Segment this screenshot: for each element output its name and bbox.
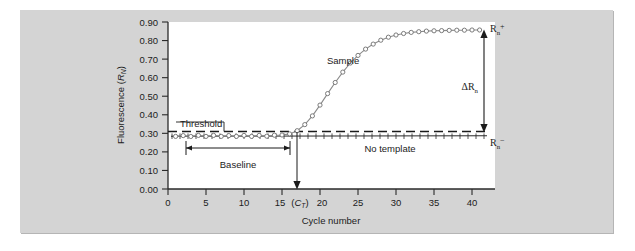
y-tick-label-0.90: 0.90 (140, 17, 159, 28)
y-tick-label-0.20: 0.20 (140, 146, 159, 157)
sample-label: Sample (327, 55, 359, 66)
y-tick-label-0.50: 0.50 (140, 91, 159, 102)
x-tick-label-20: 20 (317, 197, 328, 208)
x-tick-label-5: 5 (203, 197, 208, 208)
threshold-label: Threshold (180, 118, 222, 129)
x-tick-labels: 0 5 10 15 20 25 30 35 40 (165, 197, 477, 208)
y-tick-label-0.30: 0.30 (140, 128, 159, 139)
ct-axis-label: (CT) (291, 197, 308, 209)
baseline-label: Baseline (220, 159, 256, 170)
ct-close-paren: ) (306, 197, 309, 208)
x-tick-label-30: 30 (391, 197, 402, 208)
no-template-label: No template (364, 143, 415, 154)
y-axis-title-prefix: Fluorescence ( (115, 80, 126, 144)
plot-area (168, 22, 495, 189)
x-tick-label-0: 0 (165, 197, 170, 208)
x-tick-label-25: 25 (353, 197, 364, 208)
rn-minus-superscript: − (500, 136, 505, 145)
rn-plus-superscript: + (500, 22, 505, 31)
figure-root: 0.90 0.80 0.70 0.60 0.50 0.40 0.30 0.20 … (0, 0, 635, 251)
y-axis-title: Fluorescence (RN) (115, 66, 127, 144)
y-tick-label-0.10: 0.10 (140, 165, 159, 176)
rn-plus-label: Rn+ (490, 22, 505, 36)
qpcr-amplification-chart: 0.90 0.80 0.70 0.60 0.50 0.40 0.30 0.20 … (0, 0, 635, 251)
y-tick-labels: 0.90 0.80 0.70 0.60 0.50 0.40 0.30 0.20 … (140, 17, 159, 195)
y-tick-marks (162, 22, 168, 189)
delta-rn-base: ΔR (461, 81, 474, 92)
rn-minus-label: Rn− (490, 136, 505, 150)
x-tick-marks (168, 189, 472, 195)
x-tick-label-10: 10 (239, 197, 250, 208)
x-tick-label-40: 40 (467, 197, 478, 208)
svg-text:Fluorescence (RN): Fluorescence (RN) (115, 66, 127, 144)
y-tick-label-0.60: 0.60 (140, 72, 159, 83)
y-tick-label-0.00: 0.00 (140, 184, 159, 195)
y-tick-label-0.40: 0.40 (140, 109, 159, 120)
delta-rn-subscript: n (475, 87, 479, 94)
y-tick-label-0.70: 0.70 (140, 54, 159, 65)
x-tick-label-35: 35 (429, 197, 440, 208)
y-tick-label-0.80: 0.80 (140, 35, 159, 46)
y-axis-title-suffix: ) (115, 66, 126, 69)
x-axis-title: Cycle number (302, 215, 361, 226)
x-tick-label-15: 15 (275, 197, 286, 208)
